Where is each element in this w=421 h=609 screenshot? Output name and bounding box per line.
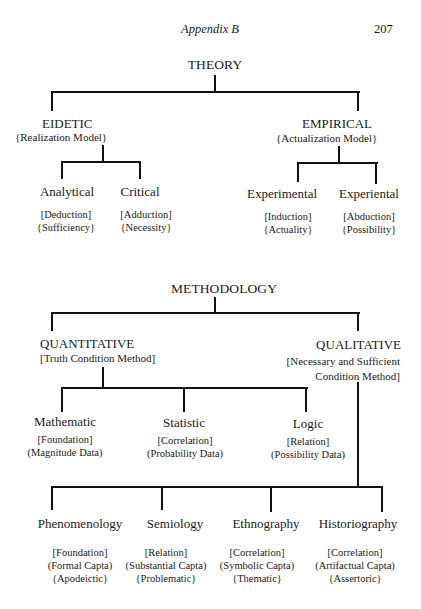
connector-line — [297, 162, 378, 164]
connector-line — [381, 486, 383, 512]
connector-line — [51, 91, 53, 111]
analytical-details: [Deduction] {Sufficiency} — [37, 208, 95, 234]
connector-line — [51, 91, 360, 93]
connector-line — [139, 161, 141, 179]
connector-line — [61, 387, 63, 412]
qualitative-method: [Necessary and Sufficient Condition Meth… — [287, 354, 400, 384]
logic-label: Logic — [293, 417, 323, 430]
ethnography-label: Ethnography — [232, 517, 299, 530]
historiography-details: [Correlation] (Artifactual Capta) {Asser… — [315, 546, 395, 585]
empirical-label: EMPIRICAL — [302, 117, 372, 130]
connector-line — [357, 91, 359, 111]
connector-line — [51, 486, 383, 488]
mathematic-details: [Foundation] (Magnitude Data) — [28, 433, 103, 459]
connector-line — [375, 162, 377, 184]
phenomenology-label: Phenomenology — [38, 517, 123, 530]
logic-details: [Relation] (Possibility Data) — [271, 435, 345, 461]
connector-line — [183, 387, 185, 412]
connector-line — [51, 312, 53, 331]
qualitative-label: QUALITATIVE — [316, 338, 401, 351]
connector-line — [102, 367, 104, 389]
ethnography-details: [Correlation] (Symbolic Capta) {Thematic… — [220, 546, 294, 585]
eidetic-label: EIDETIC — [42, 117, 93, 130]
empirical-model: {Actualization Model} — [276, 133, 377, 144]
historiography-label: Historiography — [319, 517, 398, 530]
statistic-details: [Correlation] (Probability Data) — [147, 434, 223, 460]
quantitative-label: QUANTITATIVE — [40, 337, 134, 350]
connector-line — [357, 382, 359, 488]
connector-line — [161, 486, 163, 510]
experiental-details: [Abduction] {Possibility} — [342, 210, 396, 236]
semiology-details: [Relation] (Substantial Capta) {Problema… — [126, 546, 207, 585]
analytical-label: Analytical — [40, 185, 94, 198]
running-title: Appendix B — [181, 23, 239, 36]
connector-line — [297, 162, 299, 182]
quantitative-method: [Truth Condition Method] — [40, 353, 155, 364]
statistic-label: Statistic — [163, 416, 205, 429]
experimental-label: Experimental — [247, 187, 317, 200]
connector-line — [61, 161, 141, 163]
connector-line — [51, 312, 360, 314]
methodology-root: METHODOLOGY — [171, 282, 277, 296]
critical-label: Critical — [121, 185, 160, 198]
connector-line — [305, 387, 307, 412]
critical-details: [Adduction] {Necessity} — [120, 208, 171, 234]
mathematic-label: Mathematic — [34, 415, 96, 428]
connector-line — [51, 486, 53, 510]
phenomenology-details: [Foundation] (Formal Capta) {Apodeictic} — [48, 546, 112, 585]
semiology-label: Semiology — [147, 517, 203, 530]
eidetic-model: {Realization Model} — [15, 132, 107, 143]
experimental-details: [Induction] {Actuality} — [263, 210, 312, 236]
connector-line — [61, 161, 63, 179]
theory-root: THEORY — [188, 58, 243, 72]
page-number: 207 — [374, 23, 393, 36]
experiental-label: Experiental — [339, 187, 399, 200]
connector-line — [357, 312, 359, 331]
connector-line — [270, 486, 272, 512]
